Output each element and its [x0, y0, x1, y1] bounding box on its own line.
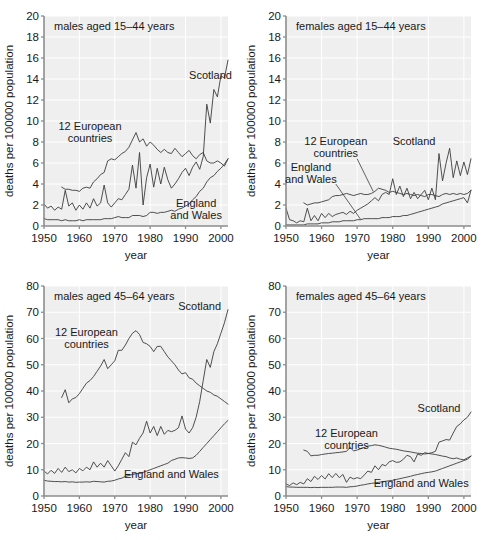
x-tick-label: 1970 — [102, 502, 128, 514]
y-tick-label: 20 — [26, 438, 39, 450]
chart-panel-bottom-right: 0102030405060708019501960197019801990200… — [242, 270, 485, 540]
x-tick-label: 2000 — [451, 502, 477, 514]
y-tick-label: 8 — [33, 136, 39, 148]
y-tick-label: 18 — [268, 31, 281, 43]
x-tick-label: 2000 — [208, 502, 234, 514]
series-annotation: Scotland — [393, 135, 436, 147]
x-tick-label: 1950 — [273, 232, 299, 244]
x-tick-label: 1950 — [31, 502, 57, 514]
x-tick-label: 1970 — [344, 232, 370, 244]
y-tick-label: 18 — [26, 31, 39, 43]
x-tick-label: 1960 — [309, 232, 335, 244]
series-annotation: Scotland — [178, 300, 221, 312]
y-tick-label: 2 — [275, 199, 281, 211]
y-tick-label: 10 — [268, 464, 281, 476]
x-tick-label: 1990 — [173, 502, 199, 514]
x-axis-title: year — [125, 519, 148, 531]
x-tick-label: 1950 — [273, 502, 299, 514]
chart-panel-top-left: 0246810121416182019501960197019801990200… — [0, 0, 242, 270]
y-axis-title: deaths per 100000 population — [3, 315, 15, 467]
panel-title: males aged 15–44 years — [54, 20, 175, 32]
x-tick-label: 2000 — [451, 232, 477, 244]
series-annotation: Englandand Wales — [285, 161, 337, 185]
y-tick-label: 70 — [268, 306, 281, 318]
series-annotation: Englandand Wales — [170, 197, 222, 221]
y-tick-label: 10 — [26, 115, 39, 127]
series-annotation: 12 Europeancountries — [55, 326, 118, 350]
y-axis: 01020304050607080 — [268, 280, 286, 502]
y-tick-label: 50 — [26, 359, 39, 371]
y-tick-label: 10 — [268, 115, 281, 127]
x-tick-label: 1960 — [67, 502, 93, 514]
y-tick-label: 0 — [33, 220, 39, 232]
x-axis-title: year — [125, 249, 148, 261]
series-annotation: 12 Europeancountries — [315, 427, 378, 451]
series-annotation: Scotland — [189, 69, 232, 81]
y-tick-label: 0 — [275, 490, 281, 502]
y-tick-label: 60 — [26, 333, 39, 345]
x-tick-label: 1990 — [173, 232, 199, 244]
x-axis: 195019601970198019902000 — [273, 226, 476, 244]
y-tick-label: 10 — [26, 464, 39, 476]
x-tick-label: 1990 — [416, 232, 442, 244]
y-axis: 02468101214161820 — [268, 10, 286, 232]
y-axis: 02468101214161820 — [26, 10, 44, 232]
y-axis-title: deaths per 100000 population — [245, 315, 257, 467]
y-tick-label: 40 — [268, 385, 281, 397]
y-tick-label: 12 — [26, 94, 39, 106]
y-tick-label: 4 — [33, 178, 40, 190]
y-tick-label: 14 — [26, 73, 39, 85]
y-tick-label: 20 — [268, 438, 281, 450]
y-tick-label: 20 — [26, 10, 39, 22]
x-axis: 195019601970198019902000 — [31, 226, 234, 244]
y-tick-label: 6 — [33, 157, 39, 169]
x-axis-title: year — [367, 519, 390, 531]
y-tick-label: 8 — [275, 136, 281, 148]
figure-panel-grid: 0246810121416182019501960197019801990200… — [0, 0, 485, 540]
y-tick-label: 0 — [275, 220, 281, 232]
chart-panel-top-right: 0246810121416182019501960197019801990200… — [242, 0, 485, 270]
series-annotation: Scotland — [418, 402, 461, 414]
y-tick-label: 30 — [26, 411, 39, 423]
x-tick-label: 1990 — [416, 502, 442, 514]
y-tick-label: 80 — [268, 280, 281, 292]
series-annotation: 12 Europeancountries — [59, 120, 122, 144]
x-tick-label: 1970 — [102, 232, 128, 244]
y-axis: 01020304050607080 — [26, 280, 44, 502]
x-tick-label: 1980 — [137, 232, 163, 244]
y-tick-label: 16 — [268, 52, 281, 64]
x-axis-title: year — [367, 249, 390, 261]
x-tick-label: 2000 — [208, 232, 234, 244]
y-tick-label: 16 — [26, 52, 39, 64]
y-tick-label: 4 — [275, 178, 282, 190]
y-tick-label: 14 — [268, 73, 281, 85]
y-tick-label: 40 — [26, 385, 39, 397]
x-tick-label: 1980 — [137, 502, 163, 514]
series-annotation: England and Wales — [374, 477, 469, 489]
panel-title: males aged 45–64 years — [54, 290, 175, 302]
x-axis: 195019601970198019902000 — [273, 496, 476, 514]
y-axis-title: deaths per 100000 population — [245, 45, 257, 197]
series-annotation: 12 Europeancountries — [304, 135, 367, 159]
panel-title: females aged 45–64 years — [296, 290, 426, 302]
y-tick-label: 50 — [268, 359, 281, 371]
x-tick-label: 1980 — [380, 502, 406, 514]
y-tick-label: 12 — [268, 94, 281, 106]
y-tick-label: 70 — [26, 306, 39, 318]
x-tick-label: 1970 — [344, 502, 370, 514]
y-axis-title: deaths per 100000 population — [3, 45, 15, 197]
x-tick-label: 1980 — [380, 232, 406, 244]
x-tick-label: 1960 — [67, 232, 93, 244]
y-tick-label: 30 — [268, 411, 281, 423]
x-axis: 195019601970198019902000 — [31, 496, 234, 514]
x-tick-label: 1950 — [31, 232, 57, 244]
panel-title: females aged 15–44 years — [296, 20, 426, 32]
y-tick-label: 60 — [268, 333, 281, 345]
x-tick-label: 1960 — [309, 502, 335, 514]
series-annotation: England and Wales — [124, 468, 219, 480]
chart-panel-bottom-left: 0102030405060708019501960197019801990200… — [0, 270, 242, 540]
y-tick-label: 2 — [33, 199, 39, 211]
y-tick-label: 20 — [268, 10, 281, 22]
y-tick-label: 6 — [275, 157, 281, 169]
y-tick-label: 0 — [33, 490, 39, 502]
